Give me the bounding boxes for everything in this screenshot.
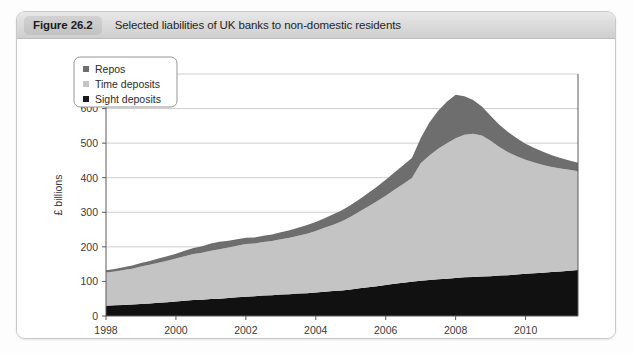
y-tick-label: 100 [80, 275, 98, 287]
y-tick-label: 500 [80, 137, 98, 149]
legend-square-marker [83, 66, 89, 72]
y-tick-label: 400 [80, 172, 98, 184]
legend-item-label[interactable]: Repos [95, 63, 125, 75]
stacked-area-chart: 0100200300400500600700 19982000200220042… [17, 39, 616, 339]
y-tick-label: 0 [92, 310, 98, 322]
x-tick-label: 1998 [94, 324, 118, 336]
x-tick-label: 2008 [444, 324, 468, 336]
legend-square-marker [83, 96, 89, 102]
x-tick-label: 2000 [164, 324, 188, 336]
y-tick-label: 300 [80, 206, 98, 218]
y-axis-title-text: £ billions [52, 175, 64, 216]
x-tick-label: 2010 [514, 324, 538, 336]
x-axis-labels: 1998200020022004200620082010 [94, 324, 537, 336]
page-root: Figure 26.2 Selected liabilities of UK b… [0, 0, 633, 353]
figure-card: Figure 26.2 Selected liabilities of UK b… [16, 11, 616, 339]
x-tick-label: 2006 [374, 324, 398, 336]
legend-item-label[interactable]: Sight deposits [95, 93, 161, 105]
figure-caption: Selected liabilities of UK banks to non-… [115, 19, 401, 31]
figure-number-badge: Figure 26.2 [24, 16, 102, 35]
area-series-layer [106, 95, 578, 316]
x-tick-label: 2004 [304, 324, 328, 336]
y-tick-label: 200 [80, 241, 98, 253]
figure-header: Figure 26.2 Selected liabilities of UK b… [17, 12, 615, 39]
legend-square-marker [83, 81, 89, 87]
y-axis-title: £ billions [52, 175, 64, 216]
x-tick-label: 2002 [234, 324, 258, 336]
chart-container: 0100200300400500600700 19982000200220042… [17, 39, 615, 339]
chart-legend[interactable]: ReposTime depositsSight deposits [74, 57, 177, 107]
legend-item-label[interactable]: Time deposits [95, 78, 160, 90]
